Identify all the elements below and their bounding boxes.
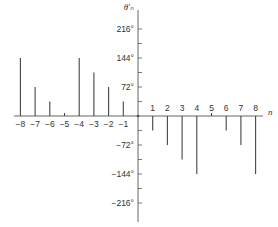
x-tick-label: −2 — [104, 119, 114, 129]
x-tick-label: 3 — [180, 103, 185, 113]
stem-chart: 216°144°72°−72°−144°−216°−8−7−6−5−4−3−2−… — [0, 0, 278, 227]
y-tick-label: −144° — [111, 169, 134, 179]
y-tick-label: 72° — [121, 82, 134, 92]
x-axis-title: n — [268, 107, 273, 117]
x-tick-label: −8 — [16, 119, 26, 129]
origin-dot — [137, 115, 140, 118]
x-tick-label: 2 — [165, 103, 170, 113]
x-tick-label: −6 — [45, 119, 55, 129]
y-tick-label: 216° — [116, 24, 134, 34]
y-axis-title: θ'ₙ — [124, 2, 134, 12]
x-tick-label: 1 — [150, 103, 155, 113]
y-tick-label: −72° — [116, 140, 134, 150]
x-tick-label: −5 — [60, 119, 70, 129]
x-tick-label: 6 — [224, 103, 229, 113]
tick-labels: 216°144°72°−72°−144°−216°−8−7−6−5−4−3−2−… — [16, 2, 273, 208]
x-tick-label: 4 — [194, 103, 199, 113]
y-tick-label: 144° — [116, 53, 134, 63]
x-tick-label: 5 — [209, 103, 214, 113]
y-tick-label: −216° — [111, 198, 134, 208]
x-tick-label: 8 — [253, 103, 258, 113]
x-tick-label: −4 — [74, 119, 84, 129]
x-tick-label: −7 — [30, 119, 40, 129]
x-tick-label: 7 — [239, 103, 244, 113]
x-tick-label: −1 — [118, 119, 128, 129]
x-tick-label: −3 — [89, 119, 99, 129]
